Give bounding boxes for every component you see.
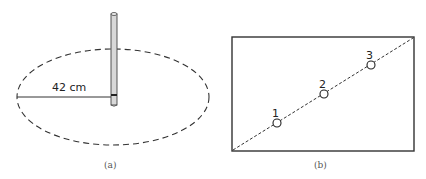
point-2: 2 <box>319 78 328 98</box>
point-3: 3 <box>366 49 375 69</box>
point-2-label: 2 <box>319 78 326 91</box>
rod-marker <box>111 94 117 96</box>
caption-b: (b) <box>314 160 327 170</box>
panel-a: 42 cm (a) <box>17 13 209 171</box>
measurement-label: 42 cm <box>52 81 86 94</box>
point-1-label: 1 <box>272 107 279 120</box>
caption-a: (a) <box>104 160 116 170</box>
panel-b: 1 2 3 (b) <box>232 37 414 170</box>
point-1: 1 <box>272 107 281 127</box>
diagram-canvas: 42 cm (a) 1 2 3 (b) <box>0 0 426 179</box>
vertical-rod <box>111 13 117 107</box>
point-3-label: 3 <box>366 49 373 62</box>
